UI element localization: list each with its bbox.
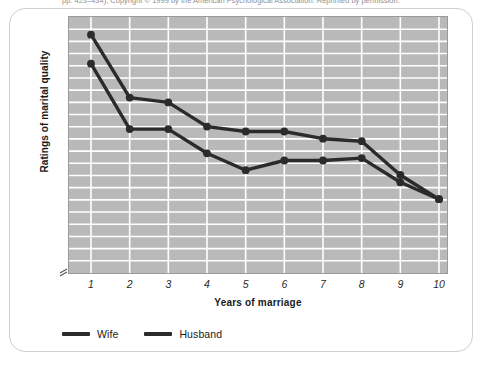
- legend-swatch-icon: [144, 332, 172, 337]
- plot-svg: [69, 17, 447, 273]
- y-axis-break-icon: [59, 258, 73, 278]
- legend-item[interactable]: Wife: [62, 328, 118, 340]
- x-tick-label: 10: [433, 278, 445, 290]
- y-axis-title: Ratings of marital quality: [39, 42, 50, 182]
- chart-legend: WifeHusband: [62, 325, 222, 343]
- x-axis-title: Years of marriage: [68, 297, 448, 308]
- x-tick-label: 4: [204, 278, 210, 290]
- x-axis-ticks: 12345678910: [68, 278, 448, 294]
- plot-area: [68, 16, 448, 274]
- x-tick-label: 5: [243, 278, 249, 290]
- legend-swatch-icon: [62, 332, 90, 337]
- x-tick-label: 9: [397, 278, 403, 290]
- x-tick-label: 7: [320, 278, 326, 290]
- line-chart-figure: Ratings of marital quality 12345678910 Y…: [0, 0, 484, 367]
- x-tick-label: 1: [88, 278, 94, 290]
- x-tick-label: 3: [165, 278, 171, 290]
- x-tick-label: 6: [281, 278, 287, 290]
- x-tick-label: 2: [127, 278, 133, 290]
- legend-label: Wife: [97, 328, 118, 340]
- legend-label: Husband: [179, 328, 222, 340]
- x-tick-label: 8: [359, 278, 365, 290]
- legend-item[interactable]: Husband: [144, 328, 222, 340]
